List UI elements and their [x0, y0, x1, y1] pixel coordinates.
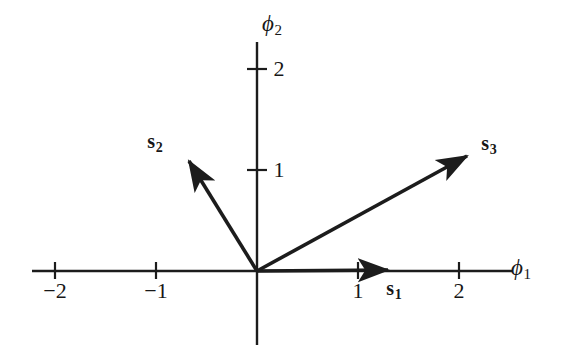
vector-arrows	[189, 156, 467, 271]
vector-s2-label: s2	[147, 131, 162, 155]
x-tick-label--1: −1	[144, 280, 167, 302]
x-tick-label--2: −2	[43, 280, 66, 302]
phi-2-axis-label: ϕ2	[262, 12, 282, 38]
y-tick-label-2: 2	[274, 58, 285, 80]
vector-s1-label: s1	[386, 278, 401, 302]
x-tick-label-1: 1	[353, 280, 364, 302]
vector-diagram-figure: ϕ1 ϕ2 −2 −1 1 2 1 2 s1 s2 s3	[0, 0, 566, 350]
vector-s2-arrow	[189, 161, 257, 271]
y-tick-label-1: 1	[274, 159, 285, 181]
x-tick-label-2: 2	[454, 280, 465, 302]
axis-lines	[32, 42, 513, 345]
vector-s1-arrow	[257, 270, 388, 271]
phi-1-axis-label: ϕ1	[511, 256, 531, 282]
vector-s3-arrow	[257, 156, 467, 271]
vector-s3-label: s3	[481, 133, 496, 157]
